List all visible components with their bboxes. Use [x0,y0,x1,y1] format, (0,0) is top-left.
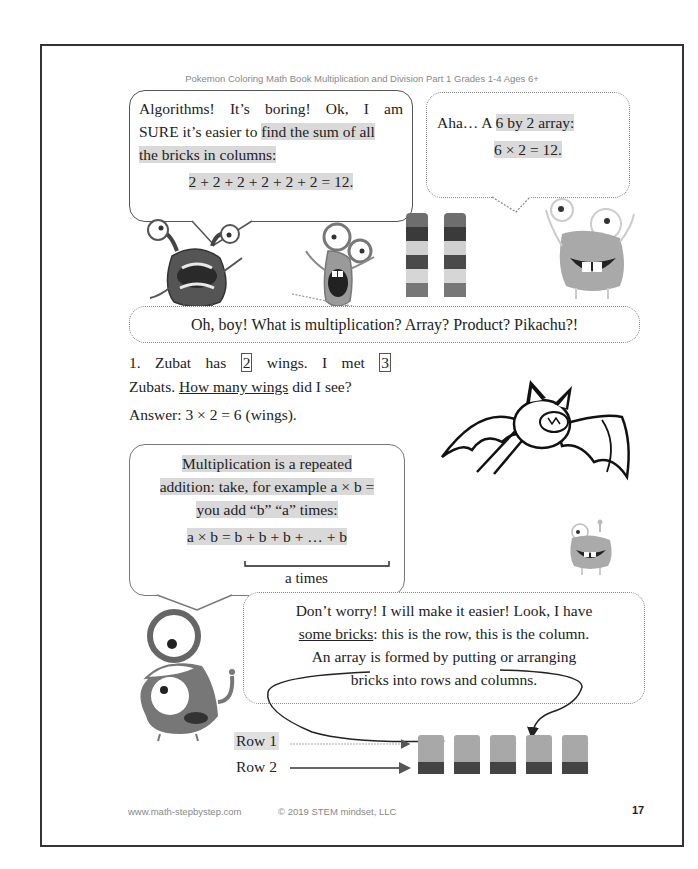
bubble-line: Algorithms! It’s boring! Ok, I am [139,97,403,120]
brick-column [562,735,588,774]
question-text: Oh, boy! What is multiplication? Array? … [140,313,629,336]
bubble-line: Aha… A 6 by 2 array: [437,111,619,134]
brick-array [418,735,588,774]
speech-bubble-definition: Multiplication is a repeated addition: t… [129,444,405,596]
problem-line: Zubats. How many wings did I see? [129,375,391,399]
wings-count-box: 2 [241,353,253,372]
book-page: Pokemon Coloring Math Book Multiplicatio… [40,44,684,847]
brick-column [526,735,552,774]
page-number: 17 [632,804,644,816]
repeated-addition-equation: a × b = b + b + b + … + b [138,525,396,548]
row-arrows [288,736,418,776]
brick-tower-1 [406,213,428,297]
bubble-line: SURE it’s easier to find the sum of all [139,120,403,143]
array-equation: 6 × 2 = 12. [437,138,619,161]
zubat-count-box: 3 [379,353,391,372]
footer-website: www.math-stepbystep.com [128,806,242,817]
bubble-line: the bricks in columns: [139,143,403,166]
smiling-monster-icon [532,196,652,301]
page-header: Pokemon Coloring Math Book Multiplicatio… [42,73,682,84]
footer-copyright: © 2019 STEM mindset, LLC [278,806,396,817]
brick-column [418,735,444,774]
brace-label: a times [285,567,328,590]
row-column-arrows [222,632,602,752]
problem-1: 1. Zubat has 2 wings. I met 3 Zubats. Ho… [129,351,391,427]
brick-tower-2 [444,213,466,297]
problem-line: 1. Zubat has 2 wings. I met 3 [129,351,391,375]
row-2-label: Row 2 [234,758,279,776]
speech-bubble-question: Oh, boy! What is multiplication? Array? … [129,306,640,343]
brick-column [454,735,480,774]
brick-column [490,735,516,774]
speech-bubble-aha: Aha… A 6 by 2 array: 6 × 2 = 12. [426,92,630,198]
zubat-bat-icon [422,362,642,482]
speech-bubble-algorithms: Algorithms! It’s boring! Ok, I am SURE i… [129,90,413,222]
sum-equation: 2 + 2 + 2 + 2 + 2 + 2 = 12. [139,170,403,193]
row-1-label: Row 1 [234,732,279,750]
answer-line: Answer: 3 × 2 = 6 (wings). [129,403,391,427]
small-monster-icon [560,520,620,576]
dark-monster-icon [142,216,252,311]
